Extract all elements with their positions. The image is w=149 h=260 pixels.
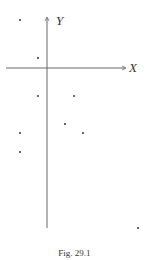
scatter-diagram [0, 0, 149, 260]
data-point [19, 19, 21, 21]
data-point [19, 151, 21, 153]
y-axis-label: Y [56, 13, 63, 29]
data-point [37, 57, 39, 59]
x-axis [6, 66, 126, 70]
data-point [73, 95, 75, 97]
x-axis-label: X [129, 60, 137, 76]
data-point [137, 227, 139, 229]
figure-caption: Fig. 29.1 [0, 248, 149, 258]
data-points [19, 19, 139, 229]
y-axis [45, 17, 49, 228]
data-point [19, 132, 21, 134]
data-point [82, 132, 84, 134]
data-point [64, 123, 66, 125]
data-point [37, 95, 39, 97]
